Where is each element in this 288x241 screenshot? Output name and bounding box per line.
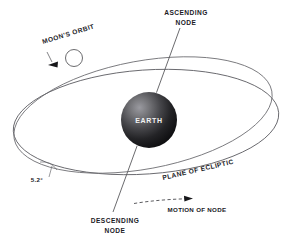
inclination-angle-label: 5.2° xyxy=(31,176,44,183)
moons-orbit-leader xyxy=(47,52,52,62)
motion-of-node-arrow xyxy=(134,196,193,204)
moon-direction-arrow-icon xyxy=(48,62,58,68)
descending-node-label-line2: NODE xyxy=(105,227,126,234)
diagram-canvas: EARTH ASCENDING NODE DESCENDING NODE MOO… xyxy=(0,0,288,241)
lunar-node-diagram: EARTH ASCENDING NODE DESCENDING NODE MOO… xyxy=(0,0,288,241)
ascending-node-label-line2: NODE xyxy=(176,19,197,26)
descending-node-label-line1: DESCENDING xyxy=(91,217,139,224)
earth-label: EARTH xyxy=(135,117,163,124)
ascending-node-label-line1: ASCENDING xyxy=(164,9,208,16)
plane-of-ecliptic-label: PLANE OF ECLIPTIC xyxy=(162,158,235,181)
moon-marker xyxy=(48,50,83,68)
motion-of-node-label: MOTION OF NODE xyxy=(168,206,227,213)
motion-arrow-head-icon xyxy=(184,196,193,202)
moon-circle-icon xyxy=(66,50,83,67)
moons-orbit-label: MOON'S ORBIT xyxy=(41,22,95,45)
inclination-angle-marker xyxy=(40,162,57,177)
earth-body: EARTH xyxy=(121,92,177,148)
